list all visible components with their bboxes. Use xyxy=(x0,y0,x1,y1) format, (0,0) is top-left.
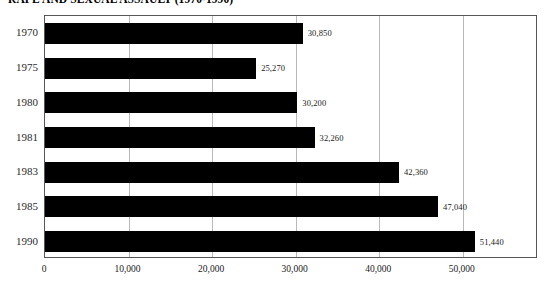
bar xyxy=(45,127,315,148)
bar-row: 42,360 xyxy=(45,162,538,183)
y-axis-tick-labels: 1970197519801981198319851990 xyxy=(0,15,38,258)
bar-value-label: 51,440 xyxy=(480,237,504,247)
bar xyxy=(45,162,399,183)
bar xyxy=(45,23,303,44)
y-axis-tick-label: 1975 xyxy=(0,61,38,73)
x-axis-tick-label: 0 xyxy=(42,264,47,274)
bar-value-label: 25,270 xyxy=(261,63,285,73)
x-axis-tick-label: 30,000 xyxy=(282,264,308,274)
y-axis-tick-label: 1981 xyxy=(0,131,38,143)
bar-value-label: 47,040 xyxy=(443,202,467,212)
bar-value-label: 30,850 xyxy=(308,28,332,38)
bar-value-label: 42,360 xyxy=(404,167,428,177)
x-axis-tick-label: 10,000 xyxy=(114,264,140,274)
y-axis-tick-label: 1990 xyxy=(0,235,38,247)
y-axis-tick-label: 1983 xyxy=(0,165,38,177)
x-axis-tick-label: 40,000 xyxy=(365,264,391,274)
bar xyxy=(45,231,475,252)
bar-value-label: 32,260 xyxy=(320,133,344,143)
bar-row: 47,040 xyxy=(45,196,538,217)
chart-title: RAPE AND SEXUAL ASSAULT (1970-1990) xyxy=(8,0,233,5)
x-axis-tick-label: 20,000 xyxy=(198,264,224,274)
bar xyxy=(45,92,297,113)
bar xyxy=(45,196,438,217)
bar-value-label: 30,200 xyxy=(302,98,326,108)
bar-row: 32,260 xyxy=(45,127,538,148)
bar-row: 25,270 xyxy=(45,58,538,79)
y-axis-tick-label: 1970 xyxy=(0,26,38,38)
x-axis-tick-label: 50,000 xyxy=(449,264,475,274)
bar-row: 30,200 xyxy=(45,92,538,113)
y-axis-tick-label: 1985 xyxy=(0,200,38,212)
x-axis-tick-labels: 010,00020,00030,00040,00050,000 xyxy=(44,264,537,282)
plot-area: 30,85025,27030,20032,26042,36047,04051,4… xyxy=(44,15,537,258)
bar-row: 30,850 xyxy=(45,23,538,44)
y-axis-tick-label: 1980 xyxy=(0,96,38,108)
bar xyxy=(45,58,256,79)
bar-row: 51,440 xyxy=(45,231,538,252)
